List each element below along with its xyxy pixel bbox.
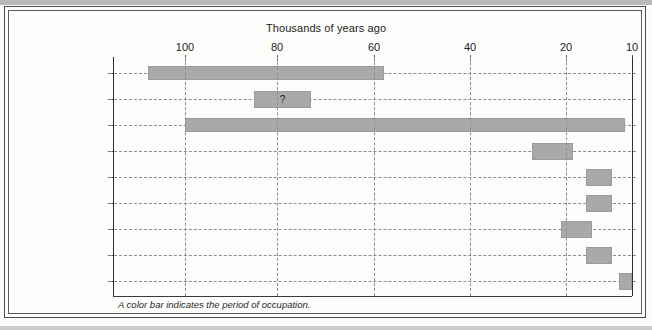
footnote-rule	[113, 296, 632, 297]
bar-neander-valley: ?	[254, 91, 311, 108]
bar-monte-verde	[586, 247, 612, 264]
figure-footnote: A color bar indicates the period of occu…	[118, 299, 310, 310]
horizontal-gridline	[109, 177, 636, 178]
x-tick-label-10: 10	[626, 41, 638, 53]
vertical-gridline-100	[185, 57, 186, 296]
chart-title: Thousands of years ago	[0, 22, 652, 34]
vertical-gridline-80	[277, 57, 278, 296]
chart-row: Shanidar	[113, 112, 632, 138]
horizontal-gridline	[109, 281, 636, 282]
vertical-gridline-40	[470, 57, 471, 296]
x-tick-label-80: 80	[271, 41, 283, 53]
horizontal-gridline	[109, 229, 636, 230]
scan-artifact-bottom	[0, 326, 652, 330]
chart-row: Dolni Vestonice	[113, 138, 632, 164]
vertical-gridline-60	[374, 57, 375, 296]
bar-lindenmeier	[619, 273, 632, 290]
chart-row: Lake Mungo	[113, 216, 632, 242]
chart-row: Klasies River Mouth	[113, 60, 632, 86]
bar-annotation-question-mark: ?	[255, 92, 310, 107]
x-tick-label-20: 20	[560, 41, 572, 53]
vertical-gridline-20	[566, 57, 567, 296]
chart-row: Pincevent	[113, 190, 632, 216]
bar-pincevent	[586, 195, 612, 212]
chart-row: Lascaux	[113, 164, 632, 190]
horizontal-gridline	[109, 203, 636, 204]
chart-row: Monte Verde	[113, 242, 632, 268]
x-tick-label-100: 100	[176, 41, 194, 53]
chart-row: Neander Valley?	[113, 86, 632, 112]
bar-shanidar	[185, 118, 625, 132]
plot-area: Klasies River MouthNeander Valley?Shanid…	[113, 60, 632, 293]
horizontal-gridline	[109, 255, 636, 256]
x-tick-label-60: 60	[368, 41, 380, 53]
chart-row: Lindenmeier	[113, 268, 632, 294]
x-tick-label-40: 40	[464, 41, 476, 53]
bar-lascaux	[586, 169, 612, 186]
bar-klasies-river-mouth	[148, 66, 383, 80]
scan-artifact-top	[0, 0, 652, 5]
horizontal-gridline	[109, 99, 636, 100]
figure-panel: Thousands of years ago 1008060402010 Kla…	[0, 0, 652, 330]
